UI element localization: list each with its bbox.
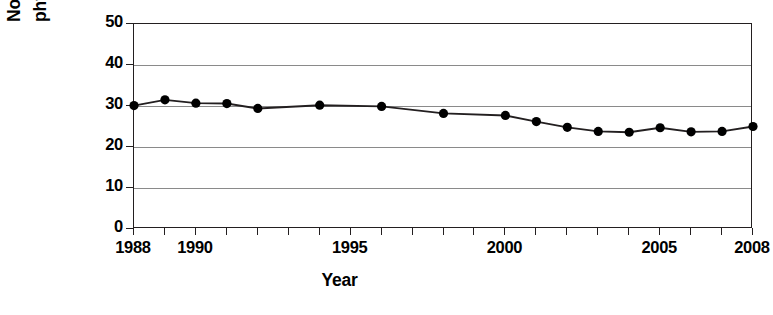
- x-axis-tick: [628, 228, 629, 235]
- x-axis-tick: [319, 228, 320, 235]
- y-axis-tick: [126, 228, 133, 229]
- y-axis-tick: [126, 187, 133, 188]
- x-axis-tick: [195, 228, 196, 235]
- x-axis-tick-label: 2008: [722, 238, 773, 257]
- y-axis-tick: [126, 23, 133, 24]
- x-axis-title-text: Year: [321, 270, 357, 290]
- y-axis-tick-label: 10: [93, 176, 123, 195]
- y-axis-tick-label: 20: [93, 135, 123, 154]
- data-point-marker: [594, 127, 603, 136]
- data-point-marker: [532, 117, 541, 126]
- x-axis-tick: [597, 228, 598, 235]
- data-point-marker: [625, 128, 634, 137]
- y-axis-title-line-2: physical activity (%): [30, 0, 52, 22]
- x-axis-tick: [659, 228, 660, 235]
- x-axis-tick: [752, 228, 753, 235]
- x-axis-tick-label: 1995: [320, 238, 380, 257]
- y-axis-title: No leisure-time physical activity (%): [0, 0, 90, 250]
- x-axis-tick: [288, 228, 289, 235]
- y-axis-tick-label: 40: [93, 53, 123, 72]
- data-point-marker: [563, 123, 572, 132]
- data-point-marker: [748, 122, 757, 131]
- x-axis-tick: [535, 228, 536, 235]
- data-point-marker: [222, 99, 231, 108]
- y-axis-tick: [126, 64, 133, 65]
- x-axis-tick: [443, 228, 444, 235]
- x-axis-tick-label: 1990: [165, 238, 225, 257]
- x-axis-title: Year: [0, 270, 773, 291]
- data-point-marker: [160, 95, 169, 104]
- x-axis-tick-label: 1988: [103, 238, 163, 257]
- x-axis-tick-label: 2005: [629, 238, 689, 257]
- x-axis-tick: [164, 228, 165, 235]
- x-axis-tick: [257, 228, 258, 235]
- x-axis-tick: [350, 228, 351, 235]
- data-point-marker: [439, 109, 448, 118]
- y-axis-tick-label: 0: [93, 217, 123, 236]
- x-axis-tick: [504, 228, 505, 235]
- data-series-line: [134, 24, 753, 229]
- data-point-marker: [315, 101, 324, 110]
- x-axis-tick: [690, 228, 691, 235]
- x-axis-tick: [381, 228, 382, 235]
- x-axis-tick: [412, 228, 413, 235]
- x-axis-tick: [566, 228, 567, 235]
- x-axis-tick-label: 2000: [474, 238, 534, 257]
- y-axis-title-line-1: No leisure-time: [4, 0, 26, 22]
- y-axis-tick-label: 30: [93, 94, 123, 113]
- data-point-marker: [191, 99, 200, 108]
- y-axis-tick-labels: 50403020100: [85, 0, 123, 250]
- chart-figure: No leisure-time physical activity (%) 50…: [0, 0, 773, 315]
- x-axis-tick: [721, 228, 722, 235]
- plot-area: [133, 23, 752, 228]
- data-point-marker: [253, 104, 262, 113]
- y-axis-tick-label: 50: [93, 12, 123, 31]
- x-axis-tick: [473, 228, 474, 235]
- data-point-marker: [501, 111, 510, 120]
- y-axis-tick: [126, 146, 133, 147]
- data-point-marker: [129, 101, 138, 110]
- data-point-marker: [687, 127, 696, 136]
- x-axis-tick: [133, 228, 134, 235]
- data-point-marker: [717, 127, 726, 136]
- data-point-marker: [656, 123, 665, 132]
- x-axis-tick: [226, 228, 227, 235]
- data-point-marker: [377, 102, 386, 111]
